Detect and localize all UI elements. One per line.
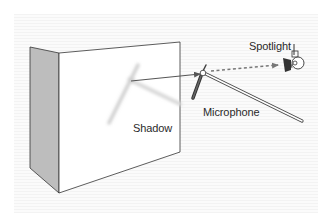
- shadow-diagram: [0, 0, 329, 223]
- shadow-label: Shadow: [133, 122, 172, 134]
- light-ray-dotted-arrow: [211, 65, 278, 71]
- microphone-icon: [193, 65, 206, 98]
- wall-front-face: [59, 42, 180, 193]
- spotlight-label: Spotlight: [249, 40, 291, 52]
- wall-side-face: [30, 47, 59, 193]
- wall: [30, 42, 180, 193]
- microphone-label: Microphone: [203, 106, 259, 118]
